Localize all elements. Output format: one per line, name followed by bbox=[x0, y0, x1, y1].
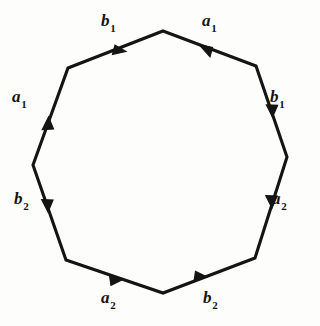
edge-label-a1-top: a1 bbox=[202, 12, 216, 32]
edge-label-b2-left-subscript: 2 bbox=[23, 200, 29, 212]
edge-label-b1-top-subscript: 1 bbox=[110, 22, 116, 34]
edge-label-b2-bottom-base: b bbox=[203, 288, 212, 307]
edge-label-b1-top-base: b bbox=[101, 11, 110, 30]
edge-label-b2-bottom-subscript: 2 bbox=[212, 299, 218, 311]
edge-label-a2-bottom-subscript: 2 bbox=[110, 299, 116, 311]
arrow-b2-left bbox=[42, 200, 53, 212]
edge-label-a2-bottom: a2 bbox=[101, 289, 115, 309]
edge-label-b1-right-base: b bbox=[270, 87, 279, 106]
arrow-a1-left bbox=[42, 117, 53, 130]
arrow-a2-bottom bbox=[110, 275, 123, 285]
octagon-figure: b1 a1 a1 b1 b2 a2 a2 b2 bbox=[0, 0, 320, 326]
edge-label-a2-bottom-base: a bbox=[101, 288, 110, 307]
edge-label-a1-top-base: a bbox=[202, 11, 211, 30]
octagon-polygon-svg bbox=[0, 0, 320, 326]
edge-label-a1-left-subscript: 1 bbox=[21, 98, 27, 110]
edge-label-a2-right: a2 bbox=[272, 190, 286, 210]
edge-label-a1-left: a1 bbox=[12, 88, 26, 108]
arrow-a1-top bbox=[199, 45, 213, 57]
edge-label-b2-bottom: b2 bbox=[203, 289, 217, 309]
edge-label-b1-right-subscript: 1 bbox=[279, 98, 285, 110]
edge-label-b2-left-base: b bbox=[14, 189, 23, 208]
edge-label-a1-left-base: a bbox=[12, 87, 21, 106]
edge-label-a2-right-subscript: 2 bbox=[281, 200, 287, 212]
edge-label-b2-left: b2 bbox=[14, 190, 28, 210]
edge-label-b1-top: b1 bbox=[101, 12, 115, 32]
octagon-outline bbox=[33, 31, 287, 293]
edge-label-b1-right: b1 bbox=[270, 88, 284, 108]
edge-label-a2-right-base: a bbox=[272, 189, 281, 208]
edge-label-a1-top-subscript: 1 bbox=[211, 22, 217, 34]
